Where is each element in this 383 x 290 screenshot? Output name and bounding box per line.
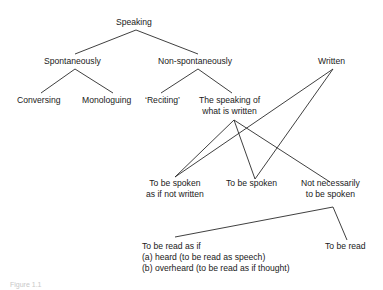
edge-spontaneously-conversing — [41, 69, 75, 93]
node-label-line-1: Not necessarily — [301, 178, 360, 189]
node-to-be-spoken: To be spoken — [226, 178, 277, 189]
node-label-line-2: (a) heard (to be read as speech) — [142, 252, 290, 263]
edge-written-speech-as-if-not — [175, 120, 234, 177]
figure-caption: Figure 1.1 — [10, 281, 42, 288]
node-spontaneously: Spontaneously — [44, 56, 101, 67]
edge-not-necessarily-read-as-if — [175, 207, 333, 237]
edge-nonspontaneously-reciting — [161, 69, 198, 93]
node-non-spontaneously: Non-spontaneously — [158, 56, 232, 67]
node-label: Non-spontaneously — [158, 56, 232, 66]
node-label: To be read — [325, 241, 366, 251]
node-label: ‘Reciting’ — [145, 95, 180, 105]
node-label: Conversing — [17, 95, 60, 105]
edge-nonspontaneously-speaking-written — [198, 69, 232, 93]
node-to-be-read: To be read — [325, 241, 366, 252]
node-label: To be spoken — [226, 178, 277, 188]
edge-speaking-nonspontaneously — [136, 30, 198, 54]
node-reciting: ‘Reciting’ — [145, 95, 180, 106]
edge-written-to-be-spoken — [255, 69, 333, 179]
node-conversing: Conversing — [17, 95, 60, 106]
node-label-line-1: To be spoken — [146, 178, 204, 189]
edge-written-as-if-not — [175, 69, 333, 177]
node-written: Written — [318, 56, 345, 67]
node-read-as-if: To be read as if (a) heard (to be read a… — [142, 241, 290, 274]
diagram-canvas: Speaking Spontaneously Non-spontaneously… — [0, 0, 383, 290]
node-speaking-of-written: The speaking of what is written — [199, 95, 260, 117]
node-label-line-3: (b) overheard (to be read as if thought) — [142, 263, 290, 274]
node-label-line-1: To be read as if — [142, 241, 290, 252]
node-label-line-2: to be spoken — [301, 189, 360, 200]
node-speaking: Speaking — [116, 17, 152, 28]
node-label-line-1: The speaking of — [199, 95, 260, 106]
node-label: Monologuing — [82, 95, 131, 105]
node-spoken-as-if-not-written: To be spoken as if not written — [146, 178, 204, 200]
edge-speaking-spontaneously — [75, 30, 136, 54]
node-not-necessarily-spoken: Not necessarily to be spoken — [301, 178, 360, 200]
node-label-line-2: as if not written — [146, 189, 204, 200]
edge-not-necessarily-to-be-read — [333, 207, 347, 240]
node-monologuing: Monologuing — [82, 95, 131, 106]
node-label: Written — [318, 56, 345, 66]
edge-spontaneously-monologuing — [75, 69, 113, 93]
node-label-line-2: what is written — [199, 106, 260, 117]
edge-written-speech-to-be-spoken — [234, 120, 255, 179]
edge-written-speech-not-necessarily — [234, 120, 330, 182]
node-label: Spontaneously — [44, 56, 101, 66]
node-label: Speaking — [116, 17, 152, 27]
